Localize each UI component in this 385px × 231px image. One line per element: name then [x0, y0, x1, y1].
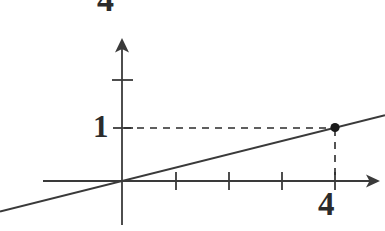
graph-figure: 4 1 4 — [0, 0, 385, 231]
x-axis-tick-label-4: 4 — [318, 188, 335, 221]
data-point-marker — [330, 123, 339, 132]
clipped-top-label: 4 — [97, 0, 114, 17]
y-axis-tick-label-1: 1 — [93, 111, 109, 142]
